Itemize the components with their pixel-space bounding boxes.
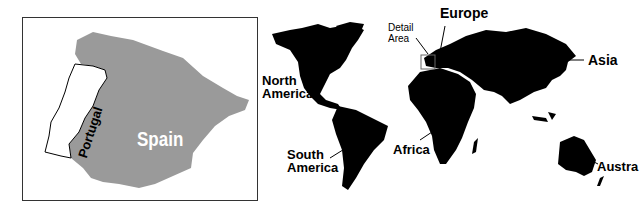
europe-label: Europe [440,6,488,20]
madagascar-landmass [472,138,478,154]
detail-area-leader [416,38,428,54]
asia-label: Asia [588,53,618,67]
detail-area-label: Detail Area [388,22,414,44]
africa-label: Africa [393,143,430,156]
australia-label: Austra [597,160,638,173]
australia-landmass [558,136,596,176]
new-zealand-landmass [597,176,604,186]
south-america-label: South America [287,148,338,174]
world-map [0,0,640,213]
south-america-landmass [332,106,388,190]
indonesia-islands [532,112,556,122]
north-america-label: North America [262,74,313,100]
